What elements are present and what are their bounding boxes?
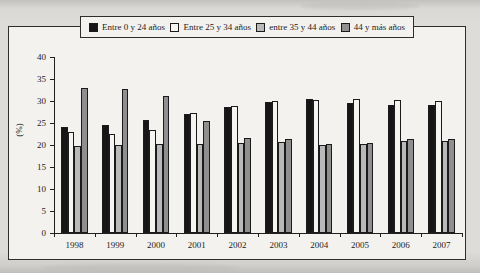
- scan-smudge: [40, 264, 240, 272]
- bar-1998-series-0: [61, 127, 68, 233]
- legend-label: entre 35 y 44 años: [269, 23, 335, 32]
- bar-2000-series-3: [163, 96, 170, 233]
- dark-gray-square-swatch: [341, 23, 350, 32]
- legend-label: Entre 0 y 24 años: [102, 23, 165, 32]
- legend-label: Entre 25 y 34 años: [183, 23, 251, 32]
- x-axis-line: [50, 233, 463, 234]
- x-axis-category-label: 2002: [218, 241, 258, 250]
- bar-2006-series-1: [394, 100, 401, 233]
- bar-1998-series-3: [81, 88, 88, 233]
- bar-2005-series-2: [360, 144, 367, 233]
- bar-1998-series-2: [74, 146, 81, 233]
- y-axis-tick-label: 20: [26, 141, 46, 150]
- bar-2002-series-0: [224, 107, 231, 233]
- bar-2001-series-2: [197, 144, 204, 233]
- bar-2002-series-2: [238, 143, 245, 233]
- bar-2003-series-2: [278, 142, 285, 233]
- y-axis-tick-label: 5: [26, 207, 46, 216]
- bar-2001-series-3: [203, 121, 210, 233]
- bar-2007-series-1: [435, 101, 442, 233]
- x-axis-category-label: 1998: [54, 241, 94, 250]
- bar-1999-series-3: [122, 89, 129, 233]
- legend-item: Entre 0 y 24 años: [89, 23, 165, 32]
- bar-2002-series-1: [231, 106, 238, 233]
- bar-2004-series-2: [319, 145, 326, 233]
- x-axis-category-label: 2001: [177, 241, 217, 250]
- bar-2006-series-0: [388, 105, 395, 233]
- x-axis-category-label: 2000: [136, 241, 176, 250]
- bar-2000-series-1: [149, 130, 156, 233]
- bar-2003-series-0: [265, 102, 272, 233]
- bar-2001-series-1: [190, 113, 197, 233]
- x-axis-category-label: 1999: [95, 241, 135, 250]
- bar-2006-series-2: [401, 141, 408, 233]
- y-axis-tick-label: 10: [26, 185, 46, 194]
- legend-item: entre 35 y 44 años: [256, 23, 335, 32]
- bar-2007-series-0: [428, 105, 435, 233]
- scanned-figure: Entre 0 y 24 añosEntre 25 y 34 añosentre…: [0, 0, 480, 273]
- bar-1999-series-0: [102, 125, 109, 233]
- bar-2005-series-1: [353, 99, 360, 233]
- chart-legend: Entre 0 y 24 añosEntre 25 y 34 añosentre…: [80, 16, 414, 38]
- white-square-swatch: [170, 23, 179, 32]
- bar-1999-series-2: [115, 145, 122, 233]
- black-filled-square-swatch: [89, 23, 98, 32]
- bar-2007-series-2: [442, 141, 449, 233]
- y-axis-tick-label: 0: [26, 229, 46, 238]
- bar-2004-series-1: [313, 100, 320, 233]
- light-gray-square-swatch: [256, 23, 265, 32]
- bar-2001-series-0: [184, 114, 191, 233]
- y-axis-tick-label: 25: [26, 119, 46, 128]
- bar-2003-series-3: [285, 139, 292, 233]
- y-axis-tick-label: 35: [26, 75, 46, 84]
- scan-smudge: [300, 2, 420, 10]
- bar-2007-series-3: [448, 139, 455, 233]
- bar-2005-series-0: [347, 103, 354, 233]
- y-axis-tick-label: 30: [26, 97, 46, 106]
- bar-1998-series-1: [68, 132, 75, 233]
- legend-label: 44 y más años: [354, 23, 405, 32]
- bar-2000-series-2: [156, 144, 163, 233]
- y-axis-line: [54, 57, 55, 234]
- y-axis-title: (%): [14, 123, 24, 137]
- bar-2002-series-3: [244, 138, 251, 233]
- bar-2000-series-0: [143, 120, 150, 233]
- bar-2003-series-1: [272, 101, 279, 233]
- x-axis-category-label: 2007: [422, 241, 462, 250]
- bar-2004-series-0: [306, 99, 313, 233]
- x-axis-category-label: 2006: [381, 241, 421, 250]
- y-axis-tick-label: 15: [26, 163, 46, 172]
- legend-item: 44 y más años: [341, 23, 405, 32]
- x-axis-category-label: 2003: [258, 241, 298, 250]
- bar-2006-series-3: [407, 139, 414, 233]
- y-axis-tick-label: 40: [26, 53, 46, 62]
- bar-2005-series-3: [367, 143, 374, 233]
- x-axis-category-label: 2005: [340, 241, 380, 250]
- bar-2004-series-3: [326, 144, 333, 233]
- x-axis-category-label: 2004: [299, 241, 339, 250]
- bar-1999-series-1: [109, 134, 116, 233]
- legend-item: Entre 25 y 34 años: [170, 23, 251, 32]
